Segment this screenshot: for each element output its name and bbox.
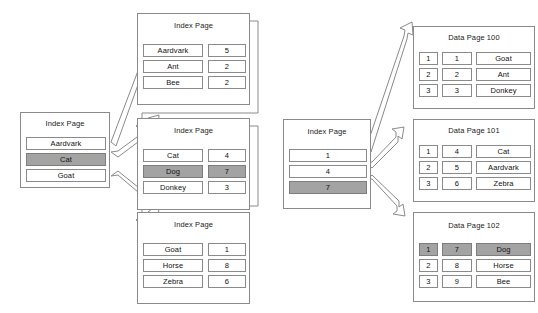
index-entry-row[interactable]: Horse 8: [143, 259, 249, 272]
index-entry-key: 7: [289, 181, 367, 194]
index-entry-key: Horse: [143, 259, 203, 272]
leaf-index-page-1-title: Index Page: [138, 22, 249, 30]
data-row-slot: 1: [419, 145, 438, 158]
data-row-value: Zebra: [476, 177, 531, 190]
data-row[interactable]: 2 5 Aardvark: [419, 161, 534, 174]
middle-index-page[interactable]: Index Page 1 4 7: [283, 119, 371, 209]
data-page-102-title: Data Page 102: [414, 222, 534, 230]
index-entry-value: 3: [208, 181, 246, 194]
data-row-slot: 3: [419, 275, 438, 288]
leaf-index-page-2-title: Index Page: [138, 127, 249, 135]
arrow-mid-to-data-102: [366, 175, 405, 216]
data-row-value: Horse: [476, 259, 531, 272]
index-entry-row[interactable]: Goat 1: [143, 243, 249, 256]
index-entry-value: 7: [208, 165, 246, 178]
index-entry-row[interactable]: Aardvark 5: [143, 44, 249, 57]
index-entry-value: 8: [208, 259, 246, 272]
data-row[interactable]: 1 7 Dog: [419, 243, 534, 256]
data-row-key: 6: [442, 177, 472, 190]
data-row-key: 3: [442, 84, 472, 97]
data-row-key: 1: [442, 52, 472, 65]
index-entry-row[interactable]: 1: [289, 149, 370, 162]
index-entry-key: Ant: [143, 60, 203, 73]
data-row-value: Goat: [476, 52, 531, 65]
data-row-value: Ant: [476, 68, 531, 81]
data-row-slot: 3: [419, 177, 438, 190]
index-entry-key: Cat: [26, 153, 106, 166]
index-entry-value: 4: [208, 149, 246, 162]
data-row[interactable]: 3 6 Zebra: [419, 177, 534, 190]
root-index-page[interactable]: Index Page Aardvark Cat Goat: [20, 112, 110, 188]
index-entry-row[interactable]: Aardvark: [26, 137, 109, 150]
index-entry-key: Goat: [26, 169, 106, 182]
index-entry-row[interactable]: Dog 7: [143, 165, 249, 178]
data-row-key: 5: [442, 161, 472, 174]
data-row[interactable]: 2 2 Ant: [419, 68, 534, 81]
index-entry-value: 2: [208, 76, 246, 89]
data-row-value: Bee: [476, 275, 531, 288]
data-page-101-title: Data Page 101: [414, 127, 534, 135]
data-row-slot: 1: [419, 52, 438, 65]
data-row-value: Cat: [476, 145, 531, 158]
data-page-102[interactable]: Data Page 102 1 7 Dog 2 8 Horse 3 9 Bee: [413, 212, 535, 302]
data-page-100[interactable]: Data Page 100 1 1 Goat 2 2 Ant 3 3 Donke…: [413, 26, 535, 109]
index-entry-row[interactable]: Ant 2: [143, 60, 249, 73]
arrow-mid-to-data-100: [366, 22, 413, 152]
diagram-canvas: Index Page Aardvark Cat Goat Index Page …: [0, 0, 538, 313]
leaf-index-page-3[interactable]: Index Page Goat 1 Horse 8 Zebra 6: [137, 212, 250, 304]
index-entry-row[interactable]: Bee 2: [143, 76, 249, 89]
index-entry-key: 4: [289, 165, 367, 178]
index-entry-row[interactable]: 4: [289, 165, 370, 178]
data-row-key: 4: [442, 145, 472, 158]
index-entry-key: Zebra: [143, 275, 203, 288]
index-entry-key: Dog: [143, 165, 203, 178]
index-entry-row[interactable]: Donkey 3: [143, 181, 249, 194]
data-row[interactable]: 3 9 Bee: [419, 275, 534, 288]
data-row[interactable]: 3 3 Donkey: [419, 84, 534, 97]
leaf-index-page-3-title: Index Page: [138, 221, 249, 229]
index-entry-row[interactable]: Zebra 6: [143, 275, 249, 288]
data-row-value: Donkey: [476, 84, 531, 97]
data-row-slot: 1: [419, 243, 438, 256]
index-entry-value: 1: [208, 243, 246, 256]
index-entry-key: 1: [289, 149, 367, 162]
data-row-slot: 2: [419, 161, 438, 174]
data-row-key: 9: [442, 275, 472, 288]
leaf-index-page-1[interactable]: Index Page Aardvark 5 Ant 2 Bee 2: [137, 13, 250, 105]
data-row[interactable]: 1 1 Goat: [419, 52, 534, 65]
middle-index-page-title: Index Page: [284, 128, 370, 136]
data-row-slot: 2: [419, 68, 438, 81]
index-entry-value: 6: [208, 275, 246, 288]
data-row-key: 2: [442, 68, 472, 81]
index-entry-key: Bee: [143, 76, 203, 89]
index-entry-key: Donkey: [143, 181, 203, 194]
index-entry-key: Aardvark: [143, 44, 203, 57]
index-entry-key: Cat: [143, 149, 203, 162]
root-index-page-title: Index Page: [21, 120, 109, 128]
data-row[interactable]: 1 4 Cat: [419, 145, 534, 158]
index-entry-row[interactable]: Cat 4: [143, 149, 249, 162]
index-entry-row[interactable]: 7: [289, 181, 370, 194]
data-row-value: Dog: [476, 243, 531, 256]
index-entry-value: 5: [208, 44, 246, 57]
index-entry-key: Aardvark: [26, 137, 106, 150]
index-entry-row[interactable]: Cat: [26, 153, 109, 166]
index-entry-key: Goat: [143, 243, 203, 256]
data-row[interactable]: 2 8 Horse: [419, 259, 534, 272]
data-row-value: Aardvark: [476, 161, 531, 174]
index-entry-row[interactable]: Goat: [26, 169, 109, 182]
data-row-slot: 3: [419, 84, 438, 97]
leaf-index-page-2[interactable]: Index Page Cat 4 Dog 7 Donkey 3: [137, 118, 250, 210]
index-entry-value: 2: [208, 60, 246, 73]
data-page-100-title: Data Page 100: [414, 34, 534, 42]
data-row-key: 8: [442, 259, 472, 272]
data-row-slot: 2: [419, 259, 438, 272]
data-row-key: 7: [442, 243, 472, 256]
arrow-mid-to-data-101: [366, 127, 404, 168]
data-page-101[interactable]: Data Page 101 1 4 Cat 2 5 Aardvark 3 6 Z…: [413, 119, 535, 202]
